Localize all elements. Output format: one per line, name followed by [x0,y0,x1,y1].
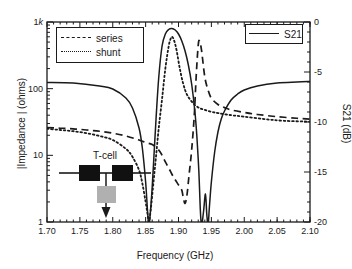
y-left-tick-label: 100 [14,84,43,94]
ground-arrow-icon [102,207,111,218]
y-left-tick-label: 10 [14,150,43,160]
x-tick-label: 2.05 [268,226,286,236]
legend-impedance: series shunt [56,27,144,63]
x-axis-title: Frequency (GHz) [0,250,350,261]
y-axis-right-title: S21 (dB) [341,24,352,224]
x-tick-label: 1.95 [203,226,221,236]
dashed-line-sample [61,37,91,39]
y-right-tick-label: -5 [314,67,322,77]
t-cell-inset-label: T-cell [57,150,153,161]
series-resonator-2 [112,165,133,181]
x-tick-label: 1.70 [38,226,56,236]
series-resonator-1 [79,165,100,181]
y-left-tick-label: 1k [14,17,43,27]
y-left-tick-label: 1 [14,217,43,227]
legend-item-shunt: shunt [61,45,139,59]
shunt-resonator [97,186,116,203]
solid-line-sample [249,33,279,35]
y-right-tick-label: -10 [314,117,327,127]
y-right-tick-label: -20 [314,217,327,227]
x-tick-label: 1.90 [170,226,188,236]
x-tick-label: 1.80 [104,226,122,236]
x-tick-label: 1.85 [137,226,155,236]
legend-label-series: series [96,33,123,44]
legend-item-s21: S21 [249,27,299,41]
dotted-line-sample [61,51,91,53]
x-tick-label: 1.75 [71,226,89,236]
y-right-tick-label: 0 [314,17,319,27]
legend-label-shunt: shunt [96,47,120,58]
legend-item-series: series [61,31,139,45]
x-tick-label: 2.10 [301,226,319,236]
y-axis-left-title: |Impedance | (ohms) [16,24,27,224]
y-right-tick-label: -15 [314,167,327,177]
legend-label-s21: S21 [284,29,302,40]
x-tick-label: 2.00 [235,226,253,236]
t-cell-inset: T-cell [57,150,153,222]
legend-s21: S21 [245,24,303,44]
